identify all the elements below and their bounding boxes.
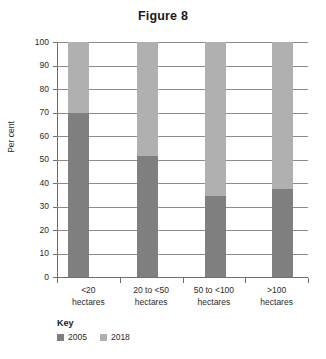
y-tick-mark [53, 183, 57, 184]
bar-group [272, 42, 293, 277]
legend-title: Key [57, 318, 130, 328]
x-tick-mark [245, 278, 246, 283]
bar-segment-2018 [272, 42, 293, 189]
plot-area [57, 42, 308, 277]
x-tick-label-line: hectares [52, 297, 124, 309]
figure-8-chart: Figure 8 Per cent 0102030405060708090100… [0, 0, 326, 359]
bar-segment-2018 [137, 42, 158, 156]
gridline [57, 160, 308, 161]
y-tick-mark [53, 89, 57, 90]
y-tick-label: 90 [21, 60, 49, 70]
bar-segment-2005 [137, 156, 158, 277]
y-tick-label: 60 [21, 131, 49, 141]
legend-swatch-icon [57, 334, 64, 341]
x-tick-label-line: <20 [52, 285, 124, 297]
y-tick-label: 30 [21, 201, 49, 211]
y-tick-label: 80 [21, 84, 49, 94]
y-tick-mark [53, 230, 57, 231]
y-tick-label: 0 [21, 272, 49, 282]
legend-item: 2005 [57, 332, 87, 342]
x-tick-label-line: >100 [241, 285, 313, 297]
bar-group [205, 42, 226, 277]
y-tick-label: 40 [21, 178, 49, 188]
y-tick-mark [53, 254, 57, 255]
x-tick-label-line: hectares [115, 297, 187, 309]
x-tick-mark [308, 278, 309, 283]
y-tick-mark [53, 160, 57, 161]
y-tick-mark [53, 42, 57, 43]
y-tick-mark [53, 207, 57, 208]
x-tick-label-line: hectares [241, 297, 313, 309]
y-tick-label: 70 [21, 107, 49, 117]
gridline [57, 89, 308, 90]
gridline [57, 42, 308, 43]
x-tick-label-line: 20 to <50 [115, 285, 187, 297]
gridline [57, 207, 308, 208]
bar-group [137, 42, 158, 277]
y-tick-label: 20 [21, 225, 49, 235]
legend-label: 2018 [111, 332, 130, 342]
y-tick-label: 50 [21, 154, 49, 164]
legend-label: 2005 [68, 332, 87, 342]
y-tick-mark [53, 66, 57, 67]
gridline [57, 66, 308, 67]
bar-segment-2005 [272, 189, 293, 277]
x-tick-label-line: hectares [178, 297, 250, 309]
x-tick-label-line: 50 to <100 [178, 285, 250, 297]
y-axis-title: Per cent [6, 109, 16, 165]
bar-group [68, 42, 89, 277]
bar-segment-2005 [68, 113, 89, 278]
chart-title: Figure 8 [0, 9, 326, 23]
gridline [57, 183, 308, 184]
y-tick-label: 100 [21, 37, 49, 47]
gridline [57, 254, 308, 255]
bar-segment-2005 [205, 196, 226, 277]
x-tick-label: 50 to <100hectares [178, 285, 250, 308]
legend-item: 2018 [100, 332, 130, 342]
x-tick-mark [183, 278, 184, 283]
x-tick-label: 20 to <50hectares [115, 285, 187, 308]
y-tick-label: 10 [21, 248, 49, 258]
gridline [57, 113, 308, 114]
x-tick-label: >100hectares [241, 285, 313, 308]
x-tick-mark [120, 278, 121, 283]
y-tick-mark [53, 113, 57, 114]
y-tick-mark [53, 136, 57, 137]
legend-items: 20052018 [57, 332, 130, 342]
gridline [57, 136, 308, 137]
legend: Key 20052018 [57, 318, 130, 342]
x-tick-label: <20hectares [52, 285, 124, 308]
legend-swatch-icon [100, 334, 107, 341]
x-tick-mark [57, 278, 58, 283]
bar-segment-2018 [68, 42, 89, 113]
bar-segment-2018 [205, 42, 226, 196]
gridline [57, 230, 308, 231]
